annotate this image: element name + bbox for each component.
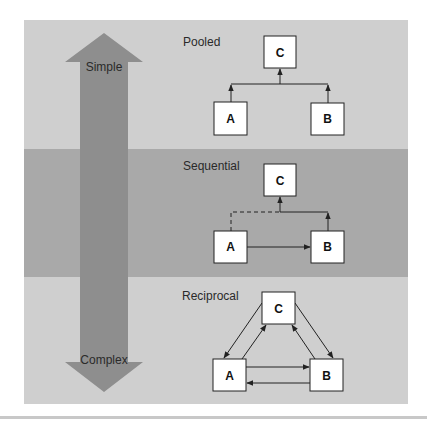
panel-sequential: Sequential C A B [183, 159, 344, 263]
interdependence-diagram: Simple Complex Pooled C A B Sequenti [0, 0, 427, 423]
panel-reciprocal: Reciprocal C A B [182, 289, 343, 391]
panel-pooled: Pooled C A B [183, 35, 344, 135]
node-b: B [311, 231, 344, 263]
svg-text:A: A [226, 112, 235, 126]
svg-text:A: A [225, 369, 234, 383]
node-a: A [214, 231, 247, 263]
diagram-canvas: Simple Complex Pooled C A B Sequenti [0, 0, 427, 423]
complex-label: Complex [80, 353, 127, 367]
svg-text:C: C [276, 174, 285, 188]
svg-text:B: B [323, 112, 332, 126]
svg-text:B: B [322, 369, 331, 383]
node-c: C [262, 292, 295, 324]
svg-text:B: B [323, 240, 332, 254]
node-b: B [311, 103, 344, 135]
complexity-double-arrow-icon [65, 33, 143, 392]
panel-title-sequential: Sequential [183, 159, 240, 173]
simple-label: Simple [86, 60, 123, 74]
node-a: A [214, 102, 247, 135]
node-c: C [264, 36, 296, 68]
svg-text:A: A [226, 240, 235, 254]
svg-text:C: C [274, 302, 283, 316]
svg-text:C: C [276, 46, 285, 60]
panel-title-pooled: Pooled [183, 35, 220, 49]
node-b: B [310, 359, 343, 391]
node-a: A [213, 359, 246, 391]
panel-title-reciprocal: Reciprocal [182, 289, 239, 303]
node-c: C [264, 164, 296, 196]
